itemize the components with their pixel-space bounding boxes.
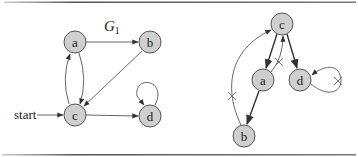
bottom-rule: [2, 154, 356, 156]
edge-c-a: [65, 54, 70, 104]
edge-b-c: [84, 51, 142, 106]
graph-title: G1: [104, 18, 120, 36]
graph-figure: G1 start a b c d: [0, 0, 358, 157]
edge-c-d: [287, 34, 297, 68]
edge-a-c-crossed: [271, 36, 283, 72]
node-b: b: [233, 125, 255, 147]
node-d: d: [139, 105, 161, 127]
left-graph: G1 start a b c d: [14, 18, 161, 127]
svg-text:b: b: [241, 129, 248, 144]
edge-a-c: [79, 53, 84, 104]
node-b: b: [139, 31, 161, 53]
node-c: c: [271, 13, 293, 35]
svg-text:b: b: [147, 35, 154, 50]
svg-text:a: a: [260, 73, 266, 88]
svg-text:d: d: [147, 109, 154, 124]
svg-text:d: d: [297, 73, 304, 88]
node-a: a: [64, 31, 86, 53]
svg-text:a: a: [72, 35, 78, 50]
node-a: a: [252, 69, 274, 91]
start-label: start: [14, 107, 37, 122]
edge-c-d: [86, 115, 138, 116]
top-rule: [4, 2, 356, 4]
edge-d-d: [137, 82, 158, 105]
svg-text:c: c: [72, 108, 78, 123]
svg-text:c: c: [279, 17, 285, 32]
edge-c-a: [266, 34, 277, 68]
node-d: d: [289, 69, 311, 91]
node-c: c: [64, 104, 86, 126]
right-graph: c a d b: [228, 13, 342, 147]
edge-a-b: [247, 91, 259, 124]
